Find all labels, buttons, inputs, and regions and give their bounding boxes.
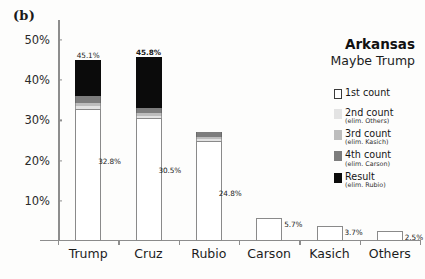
bar-inner-label-trump: 32.8% bbox=[98, 157, 121, 166]
legend-swatch-icon bbox=[334, 89, 342, 99]
legend-swatch-icon bbox=[334, 130, 342, 140]
chart-title: Arkansas bbox=[331, 36, 415, 53]
category-label-rubio: Rubio bbox=[191, 246, 226, 261]
legend-sublabel: (elim. Kasich) bbox=[345, 139, 422, 146]
legend-item: Result(elim. Rubio) bbox=[334, 172, 422, 190]
bar-top-label-trump: 45.1% bbox=[77, 51, 100, 60]
bar-top-label-others: 2.5% bbox=[405, 233, 423, 242]
legend-label: 4th count bbox=[345, 150, 422, 160]
bar-top-label-carson: 5.7% bbox=[284, 220, 302, 229]
chart-legend: 1st count2nd count(elim. Others)3rd coun… bbox=[334, 88, 422, 193]
legend-swatch-icon bbox=[334, 173, 342, 183]
category-label-cruz: Cruz bbox=[134, 246, 162, 261]
y-axis-tick-label: 50% bbox=[4, 33, 50, 47]
bar-segment-1st-count bbox=[75, 109, 101, 241]
category-label-kasich: Kasich bbox=[309, 246, 349, 261]
legend-item: 1st count bbox=[334, 88, 422, 104]
legend-label: 1st count bbox=[345, 88, 422, 98]
legend-sublabel: (elim. Rubio) bbox=[345, 182, 422, 189]
legend-item: 2nd count(elim. Others) bbox=[334, 108, 422, 126]
legend-item: 3rd count(elim. Kasich) bbox=[334, 129, 422, 147]
y-axis-tick-label: 10% bbox=[4, 194, 50, 208]
bar-carson bbox=[256, 20, 282, 241]
legend-sublabel: (elim. Carson) bbox=[345, 161, 422, 168]
x-axis-tick-mark bbox=[360, 240, 361, 245]
category-label-trump: Trump bbox=[69, 246, 108, 261]
y-axis-tick-label: 20% bbox=[4, 154, 50, 168]
bar-top-label-kasich: 3.7% bbox=[345, 228, 363, 237]
legend-label: Result bbox=[345, 172, 422, 182]
chart-subtitle: Maybe Trump bbox=[331, 53, 415, 70]
bar-segment-1st-count bbox=[136, 118, 162, 241]
y-axis-tick-label: 30% bbox=[4, 113, 50, 127]
x-axis-tick-mark bbox=[179, 240, 180, 245]
chart-panel: (b) 10%20%30%40%50% TrumpCruzRubioCarson… bbox=[0, 0, 425, 279]
chart-title-block: Arkansas Maybe Trump bbox=[331, 36, 415, 70]
bar-rubio bbox=[196, 20, 222, 241]
legend-swatch-icon bbox=[334, 109, 342, 119]
bar-inner-label-cruz: 30.5% bbox=[159, 166, 182, 175]
bar-segment-1st-count bbox=[317, 226, 343, 241]
y-axis-tick-label: 40% bbox=[4, 73, 50, 87]
x-axis-tick-mark bbox=[58, 240, 59, 245]
panel-label: (b) bbox=[13, 8, 35, 23]
x-axis-tick-mark bbox=[118, 240, 119, 245]
legend-item: 4th count(elim. Carson) bbox=[334, 150, 422, 168]
x-axis-tick-mark bbox=[239, 240, 240, 245]
legend-label: 2nd count bbox=[345, 108, 422, 118]
legend-swatch-icon bbox=[334, 151, 342, 161]
bar-segment-result bbox=[136, 57, 162, 108]
legend-label: 3rd count bbox=[345, 129, 422, 139]
bar-segment-result bbox=[75, 60, 101, 97]
category-label-carson: Carson bbox=[247, 246, 291, 261]
bar-inner-label-rubio: 24.8% bbox=[219, 189, 242, 198]
legend-sublabel: (elim. Others) bbox=[345, 118, 422, 125]
bar-segment-1st-count bbox=[256, 218, 282, 241]
bar-segment-1st-count bbox=[377, 231, 403, 241]
x-axis-tick-mark bbox=[299, 240, 300, 245]
bar-top-label-cruz: 45.8% bbox=[136, 48, 161, 57]
category-label-others: Others bbox=[369, 246, 411, 261]
